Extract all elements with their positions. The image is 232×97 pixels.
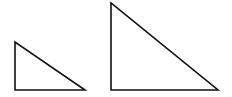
small-triangle bbox=[15, 42, 85, 90]
diagram-canvas bbox=[0, 0, 232, 97]
large-triangle bbox=[111, 3, 218, 90]
